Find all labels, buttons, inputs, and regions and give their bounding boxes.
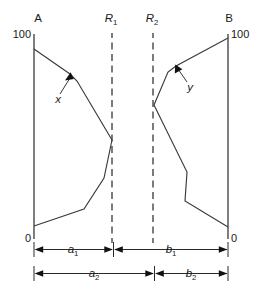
leader-line-x bbox=[60, 78, 70, 94]
dim-arrow-b2-right bbox=[219, 270, 228, 277]
dim-arrow-a2-right bbox=[145, 270, 154, 277]
reference-label-r1: R1 bbox=[105, 12, 118, 27]
curve-y-upper bbox=[154, 38, 228, 105]
dimension-label-a1-sub: 1 bbox=[74, 249, 78, 258]
dim-arrow-b1-right bbox=[219, 246, 228, 253]
leader-arrowhead-y bbox=[175, 64, 183, 73]
reference-label-r1-base: R bbox=[105, 12, 113, 24]
curve-label-y: y bbox=[186, 81, 194, 93]
leader-line-y bbox=[178, 69, 187, 82]
curve-x-lower bbox=[34, 140, 112, 226]
axis-label-a: A bbox=[34, 12, 42, 24]
dimension-label-b1-sub: 1 bbox=[172, 249, 176, 258]
dim-arrow-b2-left bbox=[155, 270, 164, 277]
axis-value-b-top: 100 bbox=[231, 28, 249, 40]
figure-root: A B 100 0 100 0 R1 R2 x y a1 b1 a2 b2 bbox=[0, 0, 261, 294]
dimension-label-a2: a2 bbox=[89, 267, 100, 282]
dim-arrow-a1-right bbox=[104, 246, 113, 253]
axis-value-a-bottom: 0 bbox=[25, 232, 31, 244]
dim-arrow-b1-left bbox=[114, 246, 123, 253]
axis-value-a-top: 100 bbox=[13, 28, 31, 40]
curve-y-lower bbox=[154, 105, 228, 227]
reference-label-r2-sub: 2 bbox=[154, 18, 158, 27]
dimension-label-a1: a1 bbox=[68, 243, 79, 258]
dim-arrow-a2-left bbox=[35, 270, 44, 277]
curve-x-upper bbox=[34, 49, 112, 140]
dimension-label-b2: b2 bbox=[186, 267, 197, 282]
curve-label-x: x bbox=[54, 93, 62, 105]
dim-arrow-a1-left bbox=[35, 246, 44, 253]
reference-label-r2: R2 bbox=[146, 12, 159, 27]
reference-label-r1-sub: 1 bbox=[113, 18, 117, 27]
reference-label-r2-base: R bbox=[146, 12, 154, 24]
dimension-label-a2-sub: 2 bbox=[95, 273, 99, 282]
axis-value-b-bottom: 0 bbox=[231, 232, 237, 244]
dimension-label-b2-sub: 2 bbox=[192, 273, 196, 282]
axis-label-b: B bbox=[225, 12, 233, 24]
dimension-label-b1: b1 bbox=[166, 243, 177, 258]
diagram-canvas: A B 100 0 100 0 R1 R2 x y a1 b1 a2 b2 bbox=[0, 0, 261, 294]
